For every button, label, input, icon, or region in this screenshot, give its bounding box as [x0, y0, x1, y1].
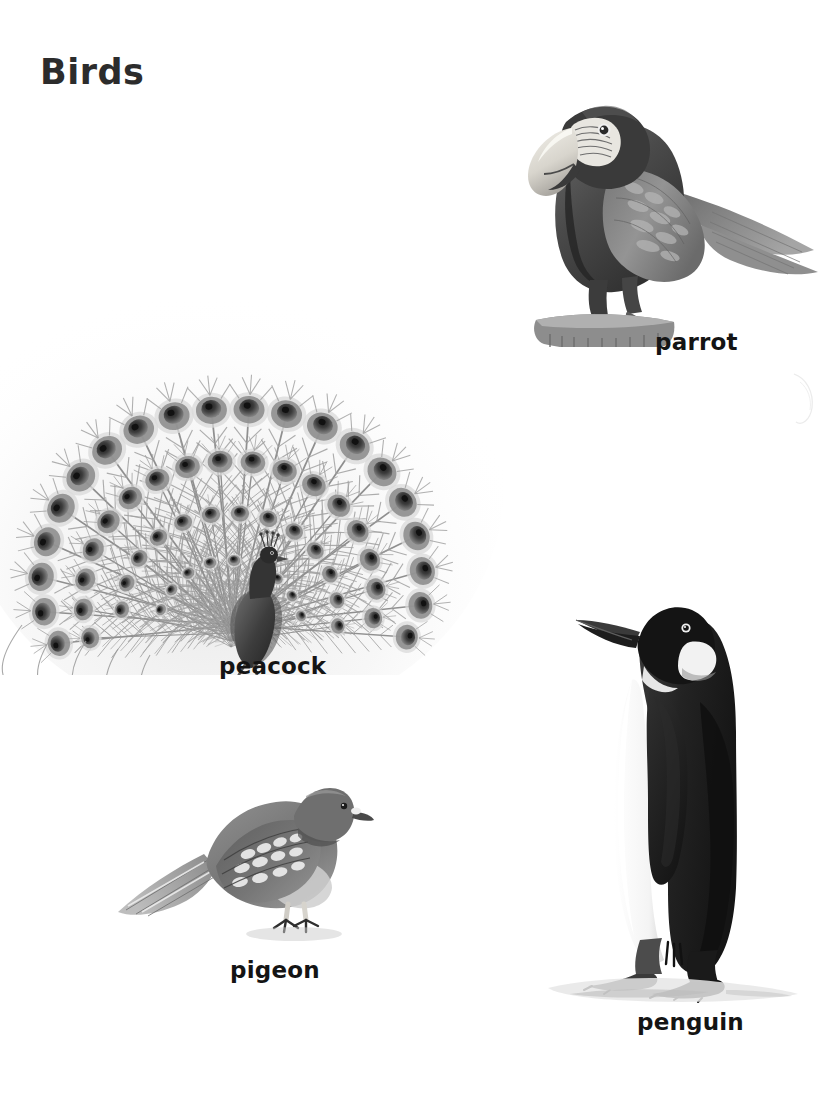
caption-peacock: peacock [219, 653, 326, 679]
parrot-perch [534, 314, 674, 347]
page-canvas: Birds [0, 0, 818, 1110]
caption-pigeon: pigeon [230, 957, 320, 983]
illustration-peacock [0, 155, 542, 675]
page-title: Birds [40, 52, 144, 92]
penguin-ground [548, 978, 798, 1002]
parrot-head [528, 106, 650, 196]
illustration-penguin [540, 592, 802, 1010]
caption-penguin: penguin [637, 1009, 744, 1035]
penguin-head [576, 607, 716, 692]
pigeon-tail [118, 854, 216, 916]
illustration-parrot [462, 72, 818, 347]
caption-parrot: parrot [655, 329, 738, 355]
scan-artifact [790, 368, 818, 428]
illustration-pigeon [112, 762, 374, 952]
pigeon-head [294, 788, 374, 846]
